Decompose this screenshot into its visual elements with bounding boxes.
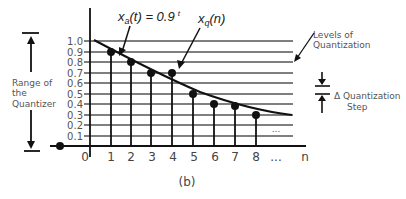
quantized-arrow bbox=[181, 28, 200, 64]
x-tick-zero: 0 bbox=[81, 150, 89, 164]
x-tick-labels: 0 1 2 3 4 5 6 7 8 ... n bbox=[81, 150, 309, 164]
y-tick: 1.0 bbox=[67, 36, 83, 47]
equation-arrow bbox=[122, 26, 130, 52]
svg-text:Δ Quantization: Δ Quantization bbox=[334, 91, 401, 101]
y-tick: 0.2 bbox=[67, 120, 83, 131]
y-tick-labels: 1.0 0.9 0.8 0.7 0.6 0.5 0.4 0.3 0.2 0.1 bbox=[67, 36, 83, 142]
svg-text:Range of: Range of bbox=[12, 78, 53, 88]
quantization-level-lines bbox=[84, 41, 293, 136]
step-label: Δ Quantization Step bbox=[334, 91, 401, 112]
svg-text:Levels of: Levels of bbox=[313, 30, 354, 40]
x-tick: 2 bbox=[127, 150, 135, 164]
down-arrow-icon bbox=[318, 79, 326, 85]
x-tick: 5 bbox=[190, 150, 198, 164]
levels-arrow bbox=[297, 33, 314, 58]
x-tick: 6 bbox=[211, 150, 219, 164]
y-tick: 0.4 bbox=[67, 99, 83, 110]
y-tick: 0.6 bbox=[67, 78, 83, 89]
y-tick: 0.1 bbox=[67, 131, 83, 142]
up-arrow-icon bbox=[318, 95, 326, 101]
range-label: Range of the Quantizer bbox=[12, 78, 56, 109]
x-ellipsis: ... bbox=[270, 150, 281, 164]
inner-ellipsis: ... bbox=[272, 124, 281, 134]
levels-label: Levels of Quantization bbox=[313, 30, 371, 50]
quantization-diagram: 1.0 0.9 0.8 0.7 0.6 0.5 0.4 0.3 0.2 0.1 … bbox=[0, 0, 406, 199]
quantized-label: xq(n) bbox=[197, 11, 225, 28]
x-tick: 3 bbox=[148, 150, 156, 164]
x-axis-label: n bbox=[301, 150, 309, 164]
x-tick: 8 bbox=[252, 150, 260, 164]
x-tick: 1 bbox=[107, 150, 115, 164]
x-tick: 7 bbox=[231, 150, 239, 164]
arrowhead-icon bbox=[294, 54, 301, 62]
svg-text:Quantization: Quantization bbox=[313, 40, 371, 50]
up-arrow-icon bbox=[27, 36, 35, 44]
svg-text:the: the bbox=[12, 88, 27, 98]
sample-points bbox=[56, 48, 260, 150]
stems bbox=[111, 52, 256, 146]
step-indicator bbox=[315, 72, 330, 113]
down-arrow-icon bbox=[27, 141, 35, 149]
x-tick: 4 bbox=[169, 150, 177, 164]
svg-text:Quantizer: Quantizer bbox=[12, 99, 56, 109]
equation-label: xa(t) = 0.9t bbox=[117, 9, 181, 26]
figure-caption: (b) bbox=[179, 175, 196, 189]
y-tick: 0.8 bbox=[67, 57, 83, 68]
svg-text:Step: Step bbox=[347, 102, 368, 112]
